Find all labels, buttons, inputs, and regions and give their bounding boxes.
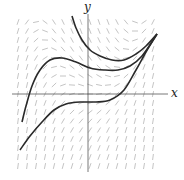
slope-segment bbox=[143, 100, 144, 106]
slope-segment bbox=[98, 163, 100, 169]
slope-segment bbox=[35, 109, 37, 115]
slope-segment bbox=[17, 64, 18, 70]
slope-segment bbox=[152, 46, 154, 52]
slope-segment bbox=[62, 163, 64, 169]
slope-segment bbox=[51, 75, 56, 78]
slope-segment bbox=[70, 65, 75, 69]
slope-segment bbox=[89, 154, 91, 160]
slope-segment bbox=[62, 28, 65, 33]
slope-segment bbox=[71, 127, 74, 132]
slope-segment bbox=[115, 29, 118, 34]
slope-segment bbox=[44, 100, 46, 106]
slope-segment bbox=[61, 110, 64, 115]
slope-segment bbox=[143, 109, 144, 115]
slope-segment bbox=[114, 67, 120, 68]
slope-segment bbox=[106, 110, 110, 115]
y-axis-label: y bbox=[84, 1, 91, 13]
slope-segment bbox=[125, 127, 127, 133]
slope-segment bbox=[134, 118, 136, 124]
slope-segment bbox=[125, 118, 127, 124]
slope-segment bbox=[132, 39, 138, 41]
slope-segment bbox=[34, 38, 38, 42]
slope-segment bbox=[107, 37, 110, 42]
slope-segment bbox=[18, 109, 19, 115]
slope-segment bbox=[125, 136, 127, 142]
slope-segment bbox=[144, 154, 145, 160]
slope-segment bbox=[79, 119, 83, 124]
slope-segment bbox=[18, 100, 19, 106]
slope-segment bbox=[89, 28, 91, 34]
slope-segment bbox=[80, 154, 82, 160]
slope-segment bbox=[35, 82, 37, 88]
slope-segment bbox=[107, 154, 109, 160]
slope-segment bbox=[17, 28, 19, 34]
slope-segment bbox=[53, 136, 55, 142]
slope-segment bbox=[53, 127, 55, 133]
slope-segment bbox=[98, 154, 100, 160]
slope-segment bbox=[107, 19, 109, 25]
slope-segment bbox=[123, 39, 128, 42]
slope-segment bbox=[71, 163, 73, 169]
slope-segment bbox=[80, 46, 83, 51]
slope-segment bbox=[116, 136, 118, 142]
slope-segment bbox=[143, 64, 145, 70]
slope-segment bbox=[17, 46, 19, 52]
slope-segment bbox=[33, 30, 38, 33]
slope-segment bbox=[96, 75, 101, 78]
slope-segment bbox=[98, 136, 101, 141]
slope-segment bbox=[142, 38, 145, 43]
slope-segment bbox=[70, 47, 73, 52]
slope-segment bbox=[25, 20, 29, 25]
slope-segment bbox=[114, 57, 119, 60]
slope-segment bbox=[124, 20, 128, 25]
slope-segment bbox=[125, 109, 127, 115]
slope-segment bbox=[52, 20, 55, 25]
slope-segment bbox=[80, 145, 82, 150]
slope-field-figure: y x bbox=[0, 0, 184, 180]
x-axis-label: x bbox=[171, 87, 178, 99]
slope-segment bbox=[125, 163, 126, 169]
slope-segment bbox=[18, 163, 19, 169]
slope-segment bbox=[97, 110, 102, 114]
slope-segment bbox=[43, 20, 48, 24]
slope-segment bbox=[17, 19, 19, 25]
slope-segment bbox=[53, 100, 56, 105]
slope-segment bbox=[35, 118, 36, 124]
slope-segment bbox=[61, 47, 65, 51]
slope-segment bbox=[153, 118, 154, 124]
slope-segment bbox=[26, 46, 28, 52]
slope-segment bbox=[33, 21, 39, 22]
slope-segment bbox=[43, 56, 48, 59]
slope-segment bbox=[62, 127, 65, 132]
slope-segment bbox=[26, 73, 28, 79]
slope-segment bbox=[62, 154, 64, 160]
slope-segment bbox=[134, 109, 136, 115]
slope-segment bbox=[26, 82, 27, 88]
slope-segment bbox=[152, 55, 154, 61]
slope-segment bbox=[18, 145, 19, 151]
slope-segment bbox=[142, 29, 146, 33]
slope-segment bbox=[26, 55, 28, 61]
slope-segment bbox=[116, 154, 118, 160]
slope-segment bbox=[52, 29, 56, 34]
slope-segment bbox=[89, 19, 91, 25]
slope-segment bbox=[125, 154, 126, 160]
slope-segment bbox=[78, 84, 84, 86]
slope-segment bbox=[62, 136, 64, 142]
slope-segment bbox=[26, 64, 28, 70]
slope-segment bbox=[153, 163, 154, 169]
slope-segment bbox=[79, 74, 84, 77]
slope-segment bbox=[96, 84, 102, 85]
slope-segment bbox=[125, 100, 128, 105]
slope-segment bbox=[35, 136, 36, 142]
slope-segment bbox=[35, 64, 38, 69]
slope-segment bbox=[98, 145, 100, 151]
slope-segment bbox=[134, 127, 135, 133]
slope-segment bbox=[61, 38, 64, 43]
slope-segment bbox=[97, 119, 101, 124]
slope-segment bbox=[71, 145, 73, 151]
slope-segment bbox=[98, 37, 101, 42]
slope-segment bbox=[98, 46, 101, 51]
slope-segment bbox=[71, 136, 74, 141]
slope-segment bbox=[89, 145, 92, 150]
